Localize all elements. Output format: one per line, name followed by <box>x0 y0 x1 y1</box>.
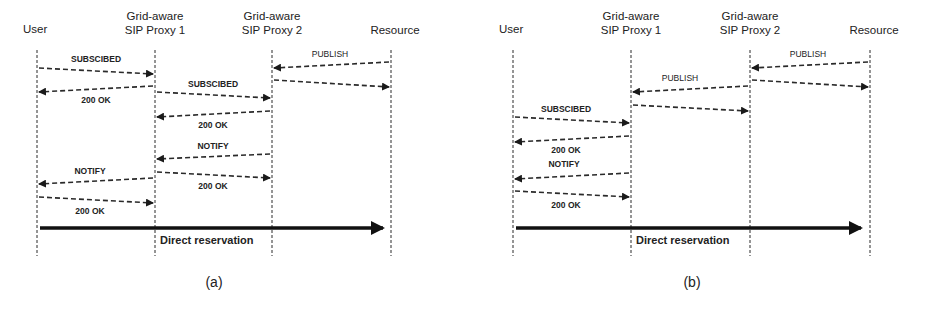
lifeline-header-label: SIP Proxy 1 <box>601 24 662 36</box>
dashed-arrow-icon <box>752 80 868 87</box>
message-publish: PUBLISH <box>633 73 748 92</box>
dashed-arrow-icon <box>39 197 153 203</box>
direct-reservation: Direct reservation <box>40 228 383 246</box>
dashed-arrow-icon <box>39 86 153 92</box>
lifeline-grid-aware-sip-proxy-2: Grid-awareSIP Proxy 2 <box>720 10 781 256</box>
message-response <box>274 80 389 87</box>
message-response <box>752 80 868 87</box>
lifeline-header-label: Grid-aware <box>603 10 660 22</box>
dashed-arrow-icon <box>39 68 153 74</box>
message-label: 200 OK <box>198 120 228 130</box>
dashed-arrow-icon <box>752 62 868 68</box>
message-label: 200 OK <box>551 145 581 155</box>
panel-b: UserGrid-awareSIP Proxy 1Grid-awareSIP P… <box>499 10 899 290</box>
lifeline-header-label: Resource <box>849 24 898 36</box>
message-label: SUBSCIBED <box>71 54 121 64</box>
dashed-arrow-icon <box>515 136 629 142</box>
dashed-arrow-icon <box>157 111 270 117</box>
message-publish: PUBLISH <box>274 49 389 68</box>
lifeline-resource: Resource <box>370 24 419 256</box>
dashed-arrow-icon <box>633 86 748 92</box>
lifeline-header-label: User <box>499 23 523 35</box>
direct-reservation-label: Direct reservation <box>160 234 254 246</box>
message-200-ok: 200 OK <box>39 197 153 216</box>
message-notify: NOTIFY <box>39 166 153 184</box>
lifeline-header-label: Grid-aware <box>127 10 184 22</box>
lifeline-header-label: SIP Proxy 2 <box>720 24 781 36</box>
message-label: PUBLISH <box>662 73 698 83</box>
panel-caption: (b) <box>683 274 700 290</box>
dashed-arrow-icon <box>39 178 153 184</box>
sequence-diagram: UserGrid-awareSIP Proxy 1Grid-awareSIP P… <box>0 0 927 313</box>
message-label: PUBLISH <box>790 49 826 59</box>
lifeline-header-label: Grid-aware <box>722 10 779 22</box>
dashed-arrow-icon <box>274 62 389 68</box>
message-label: SUBSCIBED <box>541 104 591 114</box>
lifeline-resource: Resource <box>849 24 898 256</box>
message-200-ok: 200 OK <box>515 191 629 210</box>
message-200-ok: 200 OK <box>157 172 270 191</box>
lifeline-grid-aware-sip-proxy-1: Grid-awareSIP Proxy 1 <box>125 10 186 256</box>
lifeline-grid-aware-sip-proxy-2: Grid-awareSIP Proxy 2 <box>242 10 303 256</box>
message-label: SUBSCIBED <box>188 79 238 89</box>
message-label: 200 OK <box>81 95 111 105</box>
panel-a: UserGrid-awareSIP Proxy 1Grid-awareSIP P… <box>23 10 420 290</box>
dashed-arrow-icon <box>515 117 629 123</box>
dashed-arrow-icon <box>157 92 270 98</box>
lifeline-user: User <box>499 23 523 256</box>
message-subscibed: SUBSCIBED <box>515 104 629 123</box>
message-publish: PUBLISH <box>752 49 868 68</box>
message-200-ok: 200 OK <box>157 111 270 130</box>
dashed-arrow-icon <box>633 105 748 111</box>
message-200-ok: 200 OK <box>515 136 629 155</box>
message-label: 200 OK <box>551 200 581 210</box>
lifeline-header-label: Grid-aware <box>244 10 301 22</box>
message-label: 200 OK <box>75 206 105 216</box>
lifeline-header-label: User <box>23 23 47 35</box>
message-subscibed: SUBSCIBED <box>39 54 153 74</box>
dashed-arrow-icon <box>515 191 629 197</box>
lifeline-header-label: SIP Proxy 1 <box>125 24 186 36</box>
message-label: PUBLISH <box>312 49 348 59</box>
message-notify: NOTIFY <box>157 141 270 159</box>
message-subscibed: SUBSCIBED <box>157 79 270 98</box>
dashed-arrow-icon <box>157 172 270 178</box>
message-notify: NOTIFY <box>515 159 629 179</box>
message-label: 200 OK <box>198 181 228 191</box>
lifeline-grid-aware-sip-proxy-1: Grid-awareSIP Proxy 1 <box>601 10 662 256</box>
message-200-ok: 200 OK <box>39 86 153 105</box>
dashed-arrow-icon <box>157 154 270 159</box>
direct-reservation-label: Direct reservation <box>636 234 730 246</box>
message-response <box>633 105 748 111</box>
message-label: NOTIFY <box>548 159 579 169</box>
message-label: NOTIFY <box>197 141 228 151</box>
panel-caption: (a) <box>205 274 222 290</box>
lifeline-user: User <box>23 23 47 256</box>
dashed-arrow-icon <box>515 173 629 179</box>
lifeline-header-label: Resource <box>370 24 419 36</box>
lifeline-header-label: SIP Proxy 2 <box>242 24 303 36</box>
dashed-arrow-icon <box>274 80 389 87</box>
message-label: NOTIFY <box>74 166 105 176</box>
direct-reservation: Direct reservation <box>516 228 861 246</box>
